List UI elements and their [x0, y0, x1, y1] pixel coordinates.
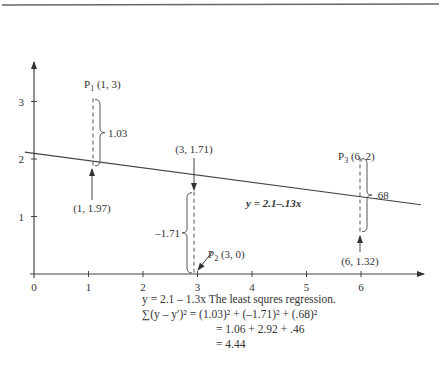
y-tick-label-3: 3 [19, 96, 25, 108]
residual-brace-P2 [182, 193, 192, 273]
top-rule [2, 4, 439, 5]
x-tick-label-0: 0 [31, 281, 37, 293]
x-tick-label-1: 1 [86, 281, 92, 293]
residual-brace-P1 [95, 100, 105, 166]
caption-line-3: = 1.06 + 2.92 + .46 [216, 322, 304, 337]
fitted-point-label-3: (3, 1.71) [175, 143, 213, 156]
caption-line-2: ∑(y – y′)² = (1.03)² + (–1.71)² + (.68)² [142, 307, 317, 322]
arrow-to-P2 [198, 252, 212, 270]
caption-line-1: y = 2.1 – 1.3x The least squres regressi… [142, 292, 336, 307]
point-label-P3: P3 (6, 2) [338, 150, 375, 165]
x-tick-label-6: 6 [358, 281, 364, 293]
fitted-point-label-1: (1, 1.97) [73, 202, 111, 215]
point-label-P1: P1 (1, 3) [84, 78, 121, 93]
residual-brace-P3 [362, 159, 372, 232]
regression-equation-label: y = 2.1–.13x [244, 197, 302, 209]
residual-label-P3: .68 [375, 189, 389, 201]
y-tick-label-2: 2 [19, 153, 25, 165]
caption-line-4: = 4.44 [216, 337, 246, 352]
y-tick-label-1: 1 [19, 211, 25, 223]
residual-label-P2: –1.71 [154, 227, 180, 239]
residual-label-P1: 1.03 [108, 127, 128, 139]
fitted-point-label-6: (6, 1.32) [341, 255, 379, 268]
point-label-P2: P2 (3, 0) [208, 248, 245, 263]
